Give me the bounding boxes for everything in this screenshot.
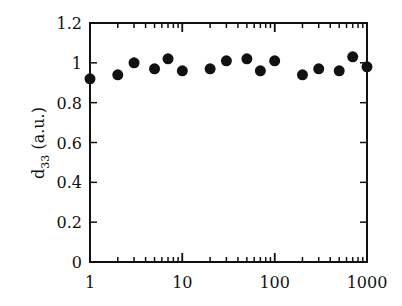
- data-point: [334, 65, 345, 76]
- x-tick-label: 1: [85, 273, 95, 292]
- y-tick-label: 0.6: [57, 134, 82, 153]
- data-point: [177, 65, 188, 76]
- data-point: [255, 65, 266, 76]
- data-point: [149, 63, 160, 74]
- y-tick-label: 0.4: [57, 173, 82, 192]
- x-tick-label: 100: [259, 273, 290, 292]
- y-axis-label-sub: 33: [39, 155, 52, 169]
- data-point: [297, 69, 308, 80]
- y-tick-label: 1.2: [57, 14, 82, 33]
- data-points: [85, 51, 373, 84]
- data-point: [313, 63, 324, 74]
- y-axis-label: d33 (a.u.): [29, 107, 52, 179]
- data-point: [347, 51, 358, 62]
- data-point: [85, 73, 96, 84]
- x-axis-tick-labels: 1101001000: [85, 273, 387, 292]
- y-axis-label-rest: (a.u.): [29, 107, 48, 155]
- scatter-chart: 00.20.40.60.811.2 1101001000 d33 (a.u.): [0, 0, 402, 306]
- x-tick-label: 1000: [347, 273, 388, 292]
- data-point: [221, 55, 232, 66]
- data-point: [241, 53, 252, 64]
- y-tick-label: 0.2: [57, 213, 82, 232]
- y-tick-label: 0: [72, 253, 82, 272]
- data-point: [205, 63, 216, 74]
- data-point: [129, 57, 140, 68]
- y-tick-label: 1: [72, 54, 82, 73]
- data-point: [163, 53, 174, 64]
- data-point: [112, 69, 123, 80]
- y-axis-label-main: d: [29, 169, 48, 179]
- data-point: [269, 55, 280, 66]
- data-point: [362, 61, 373, 72]
- x-tick-label: 10: [172, 273, 192, 292]
- y-tick-label: 0.8: [57, 94, 82, 113]
- y-axis-tick-labels: 00.20.40.60.811.2: [57, 14, 82, 272]
